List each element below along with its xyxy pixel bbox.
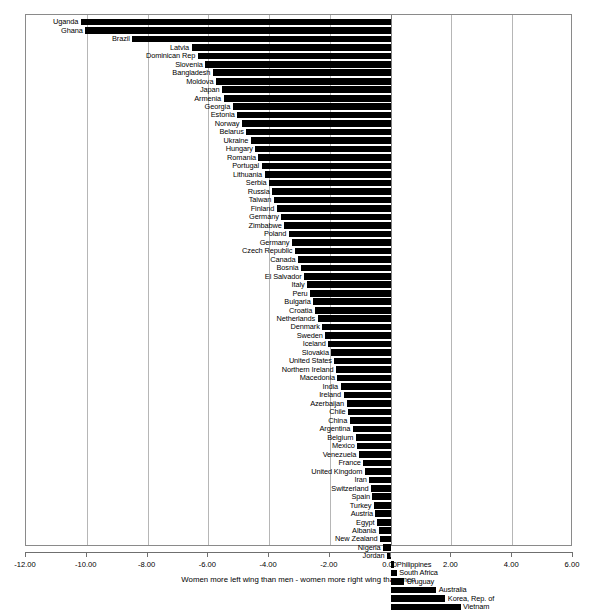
- bar-row: Ireland: [26, 391, 573, 399]
- bar-row: Norway: [26, 120, 573, 128]
- bar-row: Macedonia: [26, 374, 573, 382]
- bar: [318, 315, 391, 322]
- x-tick: [390, 552, 391, 557]
- bar: [391, 587, 437, 594]
- bar-row: Brazil: [26, 35, 573, 43]
- bar: [379, 527, 391, 534]
- bar: [337, 375, 390, 382]
- bar-row: Ghana: [26, 26, 573, 34]
- x-tick: [329, 552, 330, 557]
- bar-row: Bangladesh: [26, 69, 573, 77]
- bar: [281, 214, 390, 221]
- bar: [371, 485, 391, 492]
- bar-row: Switzerland: [26, 484, 573, 492]
- bar: [198, 53, 391, 60]
- bar-row: Sweden: [26, 332, 573, 340]
- bar: [274, 197, 391, 204]
- bar-row: Mexico: [26, 442, 573, 450]
- bar-row: Latvia: [26, 43, 573, 51]
- bar-row: Lithuania: [26, 171, 573, 179]
- x-tick-label: -10.00: [61, 560, 111, 570]
- bar: [265, 171, 391, 178]
- x-axis-line: [25, 552, 572, 553]
- bar-row: Slovenia: [26, 60, 573, 68]
- bar-row: Japan: [26, 86, 573, 94]
- bar: [301, 265, 391, 272]
- x-tick: [268, 552, 269, 557]
- bar: [213, 69, 391, 76]
- bar: [322, 324, 390, 331]
- bar: [391, 604, 461, 611]
- x-tick-label: 4.00: [486, 560, 536, 570]
- bar-row: Czech Republic: [26, 247, 573, 255]
- bar-row: Azerbaijan: [26, 400, 573, 408]
- x-tick-label: 6.00: [547, 560, 597, 570]
- bar: [292, 239, 391, 246]
- bar-row: Poland: [26, 230, 573, 238]
- bar: [289, 231, 391, 238]
- x-tick-label: -6.00: [182, 560, 232, 570]
- bar: [325, 332, 390, 339]
- bar: [258, 154, 390, 161]
- x-tick: [511, 552, 512, 557]
- bar-label: Vietnam: [463, 602, 489, 611]
- x-tick-label: 0.00: [365, 560, 415, 570]
- bar-row: Hungary: [26, 145, 573, 153]
- bar: [334, 358, 390, 365]
- bar-row: Romania: [26, 154, 573, 162]
- bar-row: Canada: [26, 255, 573, 263]
- bar: [313, 298, 390, 305]
- bar: [284, 222, 390, 229]
- bar-row: Nigeria: [26, 544, 573, 552]
- bar: [205, 61, 390, 68]
- bar-label: Brazil: [112, 34, 130, 43]
- bar: [363, 460, 390, 467]
- bar-row: Albania: [26, 527, 573, 535]
- bar: [344, 392, 391, 399]
- x-tick: [572, 552, 573, 557]
- bar: [222, 86, 391, 93]
- bar: [383, 544, 391, 551]
- bar-row: Austria: [26, 510, 573, 518]
- bar: [237, 112, 390, 119]
- bar-row: Ukraine: [26, 137, 573, 145]
- bar: [353, 426, 391, 433]
- bar: [192, 44, 391, 51]
- x-tick-label: -2.00: [304, 560, 354, 570]
- bar-row: Turkey: [26, 501, 573, 509]
- bar-row: Venezuela: [26, 450, 573, 458]
- bar-row: Belarus: [26, 128, 573, 136]
- bar: [359, 451, 391, 458]
- bar-row: Germany: [26, 213, 573, 221]
- bar: [251, 137, 391, 144]
- bar: [341, 383, 391, 390]
- bar: [310, 290, 391, 297]
- bar: [357, 443, 390, 450]
- bar-row: Uganda: [26, 18, 573, 26]
- bar-row: Georgia: [26, 103, 573, 111]
- bar: [272, 188, 391, 195]
- bar-row: France: [26, 459, 573, 467]
- bar-row: United Kingdom: [26, 467, 573, 475]
- x-tick-label: -12.00: [0, 560, 50, 570]
- bar: [375, 510, 390, 517]
- bar: [246, 129, 390, 136]
- bar-row: Portugal: [26, 162, 573, 170]
- bar-row: Dominican Rep: [26, 52, 573, 60]
- bar-row: Armenia: [26, 94, 573, 102]
- bar: [336, 366, 391, 373]
- bar-row: China: [26, 417, 573, 425]
- bar-row: Spain: [26, 493, 573, 501]
- bar-row: Belgium: [26, 434, 573, 442]
- bar-row: Serbia: [26, 179, 573, 187]
- bar: [242, 120, 391, 127]
- bar: [295, 248, 391, 255]
- bar-row: Taiwan: [26, 196, 573, 204]
- bar-row: Russia: [26, 188, 573, 196]
- bar: [365, 468, 391, 475]
- bar: [85, 27, 390, 34]
- bar-row: Argentina: [26, 425, 573, 433]
- bar: [315, 307, 391, 314]
- bar: [298, 256, 391, 263]
